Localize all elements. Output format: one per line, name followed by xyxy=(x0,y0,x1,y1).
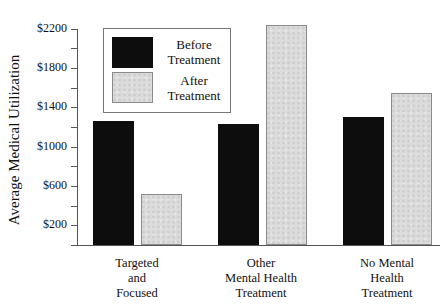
y-tick-label: $200 xyxy=(27,217,67,232)
bar-after-treatment xyxy=(391,93,432,245)
legend-label-after: After Treatment xyxy=(156,73,232,103)
x-category-label: TargetedandFocused xyxy=(82,256,192,301)
y-axis-line xyxy=(77,29,78,245)
x-category-label: No MentalHealthTreatment xyxy=(332,256,442,301)
legend-label-before: Before Treatment xyxy=(156,37,232,67)
y-tick-label: $2200 xyxy=(27,21,67,36)
y-tick-label: $1800 xyxy=(27,60,67,75)
bar-before-treatment xyxy=(93,121,134,245)
y-tick-label: $1400 xyxy=(27,99,67,114)
y-axis-label: Average Medical Utilization xyxy=(6,30,23,250)
x-axis-line xyxy=(77,245,440,246)
y-tick-label: $600 xyxy=(27,178,67,193)
bar-before-treatment xyxy=(343,117,384,245)
legend-swatch-before xyxy=(112,37,153,68)
bar-before-treatment xyxy=(218,124,259,245)
bar-after-treatment xyxy=(266,25,307,245)
x-category-label: OtherMental HealthTreatment xyxy=(206,256,316,301)
legend: Before Treatment After Treatment xyxy=(103,28,231,113)
y-tick-label: $1000 xyxy=(27,139,67,154)
legend-swatch-after xyxy=(112,72,153,103)
bar-after-treatment xyxy=(141,194,182,245)
